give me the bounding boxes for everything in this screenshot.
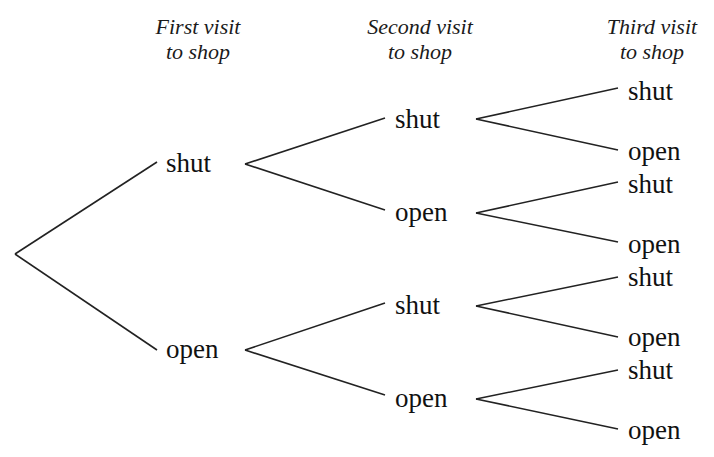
node-l3-2: open xyxy=(628,136,680,166)
header-first-line1: First visit xyxy=(138,14,258,39)
node-l2-shut-shut: shut xyxy=(395,104,440,134)
node-l3-4: open xyxy=(628,229,680,259)
tree-diagram: First visit to shop Second visit to shop… xyxy=(0,0,714,457)
header-second-visit: Second visit to shop xyxy=(350,14,490,64)
header-first-visit: First visit to shop xyxy=(138,14,258,64)
header-second-line1: Second visit xyxy=(350,14,490,39)
header-third-line2: to shop xyxy=(592,39,712,64)
header-first-line2: to shop xyxy=(138,39,258,64)
node-l3-8: open xyxy=(628,415,680,445)
node-l2-shut-open: open xyxy=(395,197,447,227)
node-l1-shut: shut xyxy=(166,148,211,178)
node-l2-open-shut: shut xyxy=(395,290,440,320)
header-third-visit: Third visit to shop xyxy=(592,14,712,64)
node-l3-5: shut xyxy=(628,262,673,292)
tree-branches xyxy=(0,0,714,457)
header-third-line1: Third visit xyxy=(592,14,712,39)
node-l3-6: open xyxy=(628,322,680,352)
node-l1-open: open xyxy=(166,334,218,364)
node-l2-open-open: open xyxy=(395,383,447,413)
node-l3-7: shut xyxy=(628,355,673,385)
header-second-line2: to shop xyxy=(350,39,490,64)
node-l3-3: shut xyxy=(628,169,673,199)
node-l3-1: shut xyxy=(628,76,673,106)
